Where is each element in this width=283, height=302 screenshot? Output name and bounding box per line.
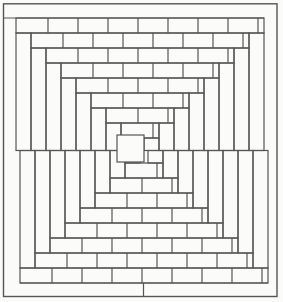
brick-pattern-figure [0,0,283,302]
brick-pattern-canvas [0,0,283,302]
